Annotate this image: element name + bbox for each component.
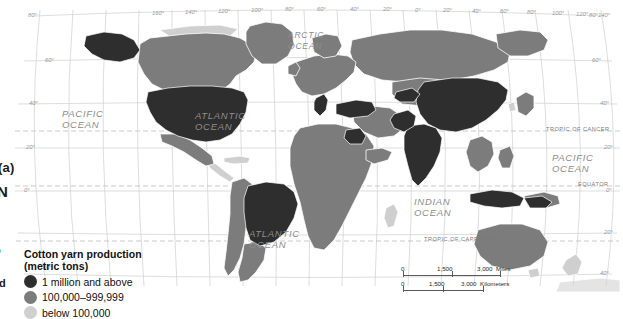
- lon-label-top-1: 140°: [185, 9, 197, 15]
- lat-label-right-4: 0°: [606, 187, 612, 193]
- lat-label-left-3: 20°: [26, 144, 35, 150]
- lat-label-right-6: 40°: [600, 270, 609, 276]
- lon-label-top-6: 40°: [350, 6, 359, 12]
- lon-label-top-14: 120°: [576, 11, 588, 17]
- lon-label-top-5: 60°: [317, 6, 326, 12]
- lon-label-top-11: 60°: [500, 8, 509, 14]
- lat-label-left-0: 80°: [28, 12, 37, 18]
- ocean-label-atlantic-north: ATLANTICOCEAN: [195, 110, 246, 132]
- scalebar-miles-tick-1: 1,500: [437, 265, 452, 272]
- lat-label-right-2: 40°: [600, 100, 609, 106]
- lat-label-right-1: 60°: [592, 57, 601, 63]
- margin-fragment-o: o: [0, 244, 1, 256]
- scalebar-km-mark-1: [443, 286, 444, 292]
- ocean-label-indian: INDIANOCEAN: [414, 196, 451, 218]
- map-scalebar: 0 1,500 3,000 Miles 0 1,500 3,000 Kilome…: [399, 266, 521, 295]
- lat-label-left-1: 60°: [45, 57, 54, 63]
- legend-label-high: 1 million and above: [42, 276, 132, 288]
- lon-label-top-7: 20°: [383, 6, 392, 12]
- scalebar-km-mark-0: [403, 286, 404, 292]
- lon-label-top-12: 80°: [527, 9, 536, 15]
- lon-label-top-8: 0°: [415, 7, 421, 13]
- label-equator: EQUATOR: [578, 181, 609, 187]
- margin-fragment-nd: nd: [0, 277, 6, 289]
- lat-label-right-0: 80°: [589, 12, 598, 18]
- island-tasmania: [528, 268, 540, 278]
- scalebar-miles-mark-1: [452, 271, 453, 277]
- legend-title-line1: Cotton yarn production: [24, 248, 199, 260]
- label-tropic-of-capricorn: TROPIC OF CAPRICORN: [424, 236, 499, 242]
- scalebar-miles-unit: Miles: [496, 265, 510, 272]
- legend-label-medium: 100,000–999,999: [42, 291, 124, 303]
- lat-label-left-4: 0°: [24, 187, 30, 193]
- lat-label-left-2: 40°: [29, 100, 38, 106]
- ocean-label-atlantic-south: ATLANTICOCEAN: [249, 228, 300, 250]
- label-tropic-of-cancer: TROPIC OF CANCER: [546, 126, 610, 132]
- lon-label-top-4: 80°: [285, 6, 294, 12]
- scalebar-km-tick-2: 3,000: [461, 280, 476, 287]
- ocean-label-pacific-west: PACIFICOCEAN: [62, 108, 104, 130]
- legend-swatch-medium: [24, 291, 37, 304]
- scalebar-miles-tick-2: 3,000: [477, 265, 492, 272]
- legend-title-line2: (metric tons): [24, 260, 199, 272]
- map-legend: Cotton yarn production (metric tons) 1 m…: [24, 248, 199, 319]
- margin-fragment-n: N: [0, 183, 8, 200]
- scalebar-miles: 0 1,500 3,000 Miles: [399, 266, 521, 280]
- lat-label-right-3: 20°: [604, 144, 613, 150]
- scalebar-miles-mark-2: [500, 271, 501, 277]
- scalebar-km-mark-2: [483, 286, 484, 292]
- legend-swatch-high: [24, 275, 37, 288]
- lon-label-top-0: 160°: [152, 10, 164, 16]
- lon-label-top-3: 100°: [251, 7, 263, 13]
- legend-swatch-low: [24, 306, 37, 319]
- lon-label-top-15: 140°: [598, 12, 610, 18]
- legend-item-medium: 100,000–999,999: [24, 291, 199, 304]
- lon-label-top-2: 120°: [218, 8, 230, 14]
- lat-label-right-5: 20°: [604, 229, 613, 235]
- region-caribbean: [224, 156, 250, 164]
- scalebar-miles-mark-0: [403, 271, 404, 277]
- legend-label-low: below 100,000: [42, 307, 110, 319]
- lon-label-top-13: 100°: [552, 10, 564, 16]
- ocean-label-arctic: ARCTICOCEAN: [288, 30, 324, 52]
- figure-label: (a): [0, 160, 15, 175]
- legend-item-high: 1 million and above: [24, 275, 199, 288]
- ocean-label-pacific-east: PACIFICOCEAN: [552, 152, 594, 174]
- lon-label-top-10: 40°: [472, 8, 481, 14]
- scalebar-km-unit: Kilometers: [480, 280, 509, 287]
- scalebar-kilometers: 0 1,500 3,000 Kilometers: [399, 281, 521, 295]
- legend-item-low: below 100,000: [24, 306, 199, 319]
- lon-label-top-9: 20°: [443, 7, 452, 13]
